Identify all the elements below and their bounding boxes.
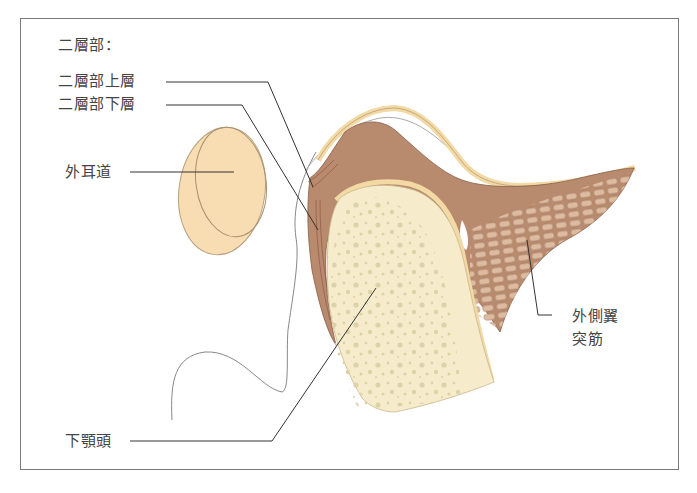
label-mandibular-condyle: 下顎頭 (65, 432, 112, 450)
label-lower-layer: 二層部下層 (58, 95, 136, 113)
external-auditory-canal (171, 122, 274, 261)
label-lateral-pterygoid-1: 外側翼 (572, 307, 619, 325)
bilaminar-zone-heading: 二層部： (58, 36, 120, 54)
label-upper-layer: 二層部上層 (58, 72, 136, 90)
label-lateral-pterygoid-2: 突筋 (572, 330, 603, 348)
label-ear-canal: 外耳道 (65, 163, 112, 181)
